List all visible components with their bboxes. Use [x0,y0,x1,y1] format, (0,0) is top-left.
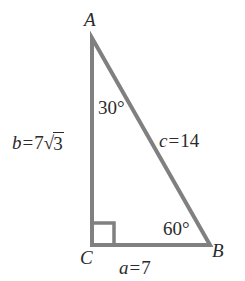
triangle-diagram-canvas: A C B 30° 60° b=7√3 c=14 a=7 [0,0,245,281]
side-label-b: b=7√3 [12,133,64,152]
side-a-variable: a [119,257,129,278]
side-c-value: 14 [180,130,199,151]
side-label-c: c=14 [159,131,199,150]
vertex-label-c: C [80,248,93,267]
side-b-coefficient: 7 [34,132,44,153]
right-angle-marker [92,223,114,245]
side-c-equals: = [167,130,180,151]
vertex-label-a: A [84,10,96,29]
side-a-equals: = [129,257,142,278]
angle-label-b-60deg: 60° [163,219,190,238]
angle-label-a-30deg: 30° [98,98,125,117]
side-b-radicand: 3 [53,132,64,154]
side-a-value: 7 [141,257,151,278]
side-b-equals: = [22,132,35,153]
radical-expression: √3 [44,133,64,152]
side-label-a: a=7 [119,258,151,277]
side-b-variable: b [12,132,22,153]
vertex-label-b: B [212,241,224,260]
